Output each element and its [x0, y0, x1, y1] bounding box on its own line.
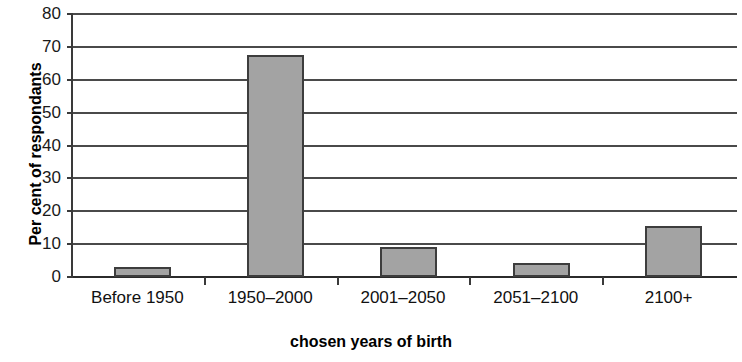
bar-slot	[471, 14, 604, 277]
plot-area	[71, 14, 735, 277]
x-axis-tick	[602, 277, 604, 285]
bar-chart: Per cent of respondants 8070605040302010…	[0, 0, 742, 362]
y-axis-tick-label: 20	[21, 202, 61, 219]
y-axis-tick-label: 10	[21, 235, 61, 252]
y-axis-tick-label: 70	[21, 38, 61, 55]
y-axis-tick-label: 80	[21, 5, 61, 22]
y-axis-tick-label: 30	[21, 169, 61, 186]
bar-slot	[339, 14, 472, 277]
y-axis-tick-label: 50	[21, 104, 61, 121]
bar-slot	[73, 14, 206, 277]
x-axis-tick-label: 1950–2000	[204, 287, 337, 309]
y-axis-tick-label: 60	[21, 71, 61, 88]
bar	[513, 263, 570, 277]
x-axis-tick-label: Before 1950	[71, 287, 204, 309]
x-axis-tick-label: 2001–2050	[337, 287, 470, 309]
x-axis-tick-label: 2100+	[602, 287, 735, 309]
bar	[380, 247, 437, 277]
x-axis-tick-labels: Before 19501950–20002001–20502051–210021…	[71, 287, 735, 313]
bar	[114, 267, 171, 277]
bar	[247, 55, 304, 277]
y-axis-tick-label: 0	[21, 268, 61, 285]
x-axis-title: chosen years of birth	[0, 333, 742, 351]
bar	[645, 226, 702, 277]
x-axis-tick	[204, 277, 206, 285]
y-axis-tick-label: 40	[21, 137, 61, 154]
x-axis-tick	[337, 277, 339, 285]
bar-slot	[604, 14, 737, 277]
bar-slot	[206, 14, 339, 277]
x-axis-tick-label: 2051–2100	[469, 287, 602, 309]
bar-series	[73, 14, 737, 277]
x-axis-tick	[469, 277, 471, 285]
